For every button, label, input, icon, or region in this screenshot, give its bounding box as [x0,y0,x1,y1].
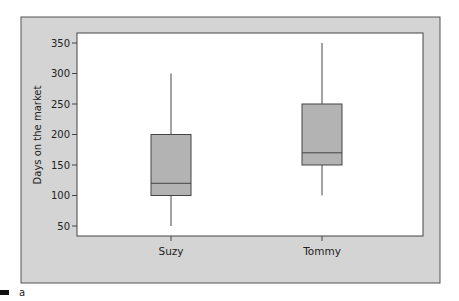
y-tick-label: 100 [51,190,70,201]
y-tick-label: 50 [57,221,70,232]
y-tick-label: 300 [51,68,70,79]
iqr-box [151,135,191,196]
panel-label: a [19,287,25,298]
box-plot-chart: 50100150200250300350 SuzyTommy Days on t… [0,0,459,301]
x-tick-label: Tommy [302,245,341,257]
y-tick-label: 200 [51,129,70,140]
y-axis-title: Days on the market [32,86,43,185]
y-tick-label: 250 [51,99,70,110]
y-tick-label: 350 [51,38,70,49]
panel-marker [0,290,9,295]
plot-area [77,33,423,236]
iqr-box [302,104,342,165]
y-tick-label: 150 [51,160,70,171]
x-tick-label: Suzy [158,245,183,257]
